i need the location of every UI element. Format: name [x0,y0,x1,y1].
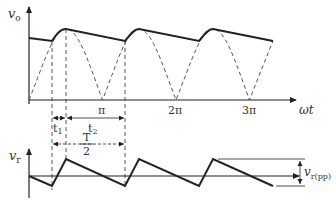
bottom-plot: vr vr(pp) [9,148,331,198]
ripple-pp-label: vr(pp) [304,165,331,181]
half-period-num: T [83,131,91,144]
x-tick-pi: π [98,104,105,117]
wt-axis-label: ωt [299,103,314,117]
rectifier-ripple-diagram: vo π 2π 3π ωt t1 t2 T 2 vr vr(pp) [0,0,336,208]
x-tick-2pi: 2π [168,104,182,117]
x-tick-3pi: 3π [242,104,256,117]
half-period-den: 2 [83,145,90,158]
ripple-sawtooth [29,159,273,186]
vo-axis-label: vo [8,6,21,23]
vr-axis-label: vr [9,148,21,165]
t1-label: t1 [53,122,63,136]
top-plot: vo π 2π 3π ωt [8,6,314,190]
interval-annotations: t1 t2 T 2 [53,118,124,158]
